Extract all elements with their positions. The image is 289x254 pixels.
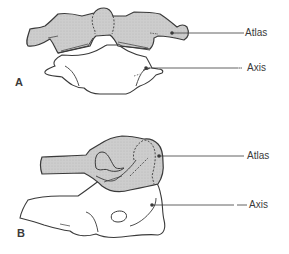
vertebrae-figure: Atlas Axis A Atlas Axis B	[0, 0, 289, 254]
panel-b-drawing	[20, 136, 247, 237]
atlas-b-shape	[41, 136, 164, 192]
label-axis-a: Axis	[247, 63, 266, 73]
vertebrae-drawing	[0, 0, 289, 254]
panel-a-drawing	[27, 8, 244, 94]
axis-foramen	[111, 211, 126, 222]
panel-letter-a: A	[15, 77, 23, 88]
label-atlas-b: Atlas	[247, 151, 269, 161]
panel-letter-b: B	[17, 228, 25, 239]
label-atlas-a: Atlas	[245, 28, 267, 38]
label-axis-b: Axis	[249, 200, 268, 210]
